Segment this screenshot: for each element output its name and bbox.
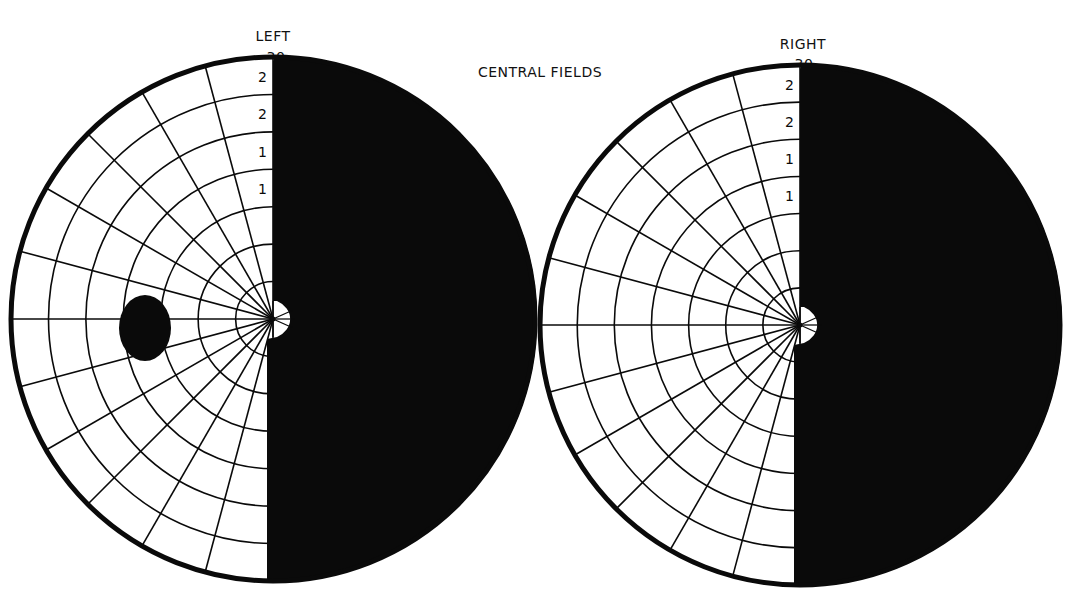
blind-hemifield — [267, 57, 537, 581]
visual-fields-diagram: 2211 2211 — [0, 0, 1077, 595]
blind-spot — [119, 295, 171, 361]
ring-label: 2 — [785, 77, 794, 93]
ring-label: 1 — [785, 151, 794, 167]
ring-label: 2 — [785, 114, 794, 130]
ring-label: 1 — [785, 188, 794, 204]
right-visual-field: 2211 — [540, 65, 1062, 585]
blind-hemifield — [794, 65, 1062, 585]
fixation-point — [271, 317, 276, 322]
ring-label: 1 — [258, 144, 267, 160]
ring-label: 2 — [258, 69, 267, 85]
left-visual-field: 2211 — [11, 57, 537, 581]
ring-label: 2 — [258, 106, 267, 122]
ring-label: 1 — [258, 181, 267, 197]
fixation-point — [798, 323, 803, 328]
